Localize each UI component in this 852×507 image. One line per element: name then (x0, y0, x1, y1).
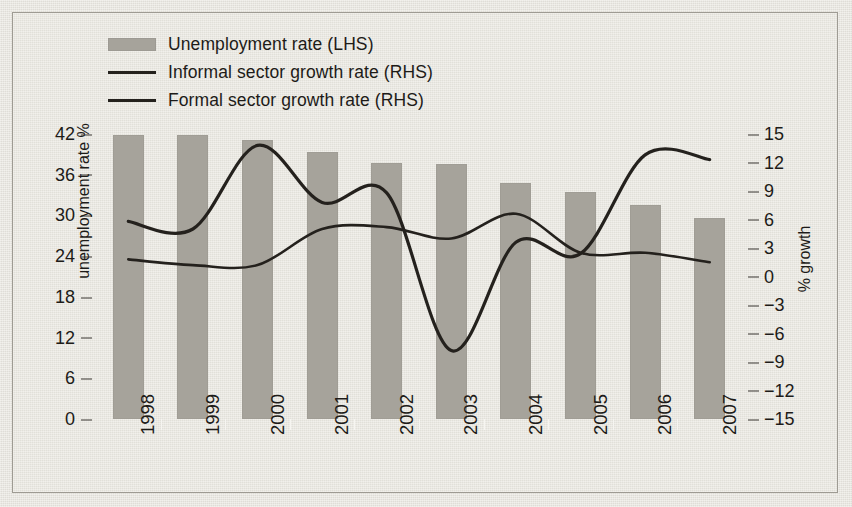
y-tick-right-minus3: −3 (748, 295, 785, 316)
y-axis-right-label: % growth (796, 194, 814, 324)
x-tick-2004 (484, 419, 485, 430)
legend-label-formal: Formal sector growth rate (RHS) (168, 90, 424, 111)
plot-area (96, 134, 742, 419)
legend-item-unemployment: Unemployment rate (LHS) (108, 30, 528, 58)
y-tick-right-minus9: −9 (748, 352, 785, 373)
x-axis-label-1999: 1999 (202, 394, 224, 435)
y-tick-right-minus15: −15 (748, 409, 795, 430)
x-axis-label-2007: 2007 (719, 394, 741, 435)
line-swatch-icon (108, 99, 156, 102)
y-axis-left-label: unemployment rate % (75, 111, 93, 291)
x-axis-label-2001: 2001 (331, 394, 353, 435)
line-formal-sector (128, 214, 709, 268)
y-tick-left-6: 6 (65, 368, 92, 389)
x-tick-2006 (613, 419, 614, 430)
y-tick-left-12: 12 (55, 327, 92, 348)
x-axis-label-1998: 1998 (137, 394, 159, 435)
legend-item-formal: Formal sector growth rate (RHS) (108, 86, 528, 114)
x-tick-2003 (419, 419, 420, 430)
y-tick-right-0: 0 (748, 266, 774, 287)
x-axis: 1998199920002001200220032004200520062007 (96, 419, 742, 507)
line-informal-sector (128, 145, 709, 351)
x-tick-2005 (548, 419, 549, 430)
x-axis-label-2005: 2005 (590, 394, 612, 435)
y-tick-right-minus6: −6 (748, 323, 785, 344)
x-tick-2007 (677, 419, 678, 430)
legend-label-unemployment: Unemployment rate (LHS) (168, 34, 374, 55)
x-tick-1999 (161, 419, 162, 430)
x-axis-label-2003: 2003 (460, 394, 482, 435)
y-tick-right-12: 12 (748, 152, 784, 173)
bar-swatch-icon (108, 38, 156, 51)
y-tick-right-minus12: −12 (748, 380, 795, 401)
x-axis-label-2002: 2002 (396, 394, 418, 435)
x-tick-2002 (354, 419, 355, 430)
y-tick-right-3: 3 (748, 238, 774, 259)
line-swatch-icon (108, 71, 156, 74)
x-axis-label-2006: 2006 (654, 394, 676, 435)
x-axis-label-2000: 2000 (267, 394, 289, 435)
y-tick-right-15: 15 (748, 124, 784, 145)
x-axis-label-2004: 2004 (525, 394, 547, 435)
x-tick-2000 (225, 419, 226, 430)
x-tick-2001 (290, 419, 291, 430)
legend-label-informal: Informal sector growth rate (RHS) (168, 62, 433, 83)
chart-legend: Unemployment rate (LHS) Informal sector … (108, 30, 528, 114)
line-series-group (96, 134, 742, 419)
chart-figure: Unemployment rate (LHS) Informal sector … (0, 0, 852, 507)
legend-item-informal: Informal sector growth rate (RHS) (108, 58, 528, 86)
y-tick-left-0: 0 (65, 409, 92, 430)
y-tick-right-6: 6 (748, 209, 774, 230)
y-tick-right-9: 9 (748, 181, 774, 202)
